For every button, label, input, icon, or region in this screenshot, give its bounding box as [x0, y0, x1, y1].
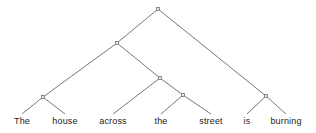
tree-node-marker [158, 76, 161, 79]
tree-edge [43, 97, 65, 114]
tree-node-marker [115, 41, 118, 44]
tree-leaf-label: is [244, 116, 251, 126]
tree-edge [161, 95, 183, 114]
tree-leaf-label: The [14, 116, 30, 126]
tree-node-layer [41, 7, 267, 98]
tree-edge [43, 43, 117, 97]
tree-edge [22, 97, 43, 114]
tree-edge-layer [22, 9, 286, 114]
tree-leaf-label: house [52, 116, 77, 126]
tree-edge [266, 96, 286, 114]
tree-node-marker [264, 94, 267, 97]
tree-leaf-label: the [155, 116, 168, 126]
tree-edge [247, 96, 266, 114]
tree-leaf-label: burning [270, 116, 301, 126]
tree-leaf-label: across [99, 116, 126, 126]
tree-edge [158, 9, 266, 96]
tree-leaf-label: street [199, 116, 222, 126]
tree-edge [183, 95, 211, 114]
syntax-tree-figure: Thehouseacrossthestreetisburning [0, 0, 316, 133]
tree-node-marker [41, 95, 44, 98]
syntax-tree-canvas [0, 0, 316, 133]
tree-edge [113, 78, 160, 114]
tree-node-marker [156, 7, 159, 10]
tree-edge [160, 78, 183, 95]
tree-edge [117, 9, 158, 43]
tree-edge [117, 43, 160, 78]
tree-node-marker [181, 93, 184, 96]
